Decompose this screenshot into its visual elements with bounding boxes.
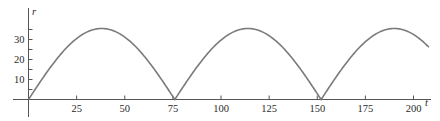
x-tick-label: 150 xyxy=(309,103,325,114)
x-tick-label: 100 xyxy=(213,103,229,114)
y-axis-ticks: 102030 xyxy=(14,30,33,90)
x-tick-label: 75 xyxy=(168,103,179,114)
y-tick-label: 10 xyxy=(14,74,25,85)
x-tick-label: 200 xyxy=(406,103,422,114)
x-tick-label: 125 xyxy=(261,103,277,114)
y-axis-label: r xyxy=(32,6,37,17)
x-tick-label: 25 xyxy=(71,103,82,114)
x-tick-label: 50 xyxy=(120,103,131,114)
y-tick-label: 30 xyxy=(14,34,25,45)
x-tick-label: 175 xyxy=(358,103,374,114)
r-of-t-curve xyxy=(29,29,429,100)
arch-line-chart: 255075100125150175200 102030 t r xyxy=(0,0,440,121)
y-tick-label: 20 xyxy=(14,54,25,65)
x-axis-ticks: 255075100125150175200 xyxy=(71,96,421,114)
x-axis-label: t xyxy=(425,97,429,108)
